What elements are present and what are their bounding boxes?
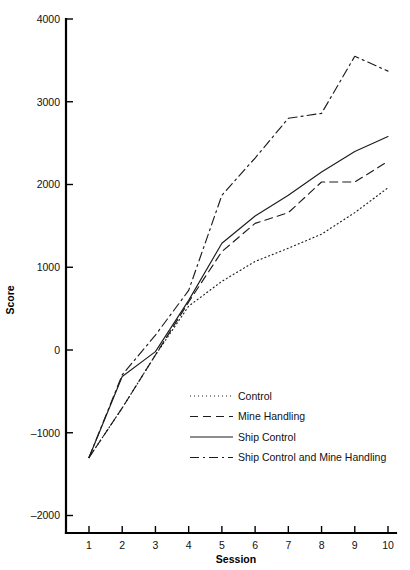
x-axis-title: Session: [216, 553, 256, 565]
y-axis-title: Score: [4, 285, 16, 314]
chart-figure: –2000–100001000200030004000 12345678910 …: [0, 0, 410, 570]
legend-label-ship-control: Ship Control: [238, 431, 296, 443]
line-chart: –2000–100001000200030004000 12345678910 …: [0, 0, 410, 570]
y-tick-label: 4000: [37, 13, 61, 25]
y-tick-label: 2000: [37, 178, 61, 190]
x-tick-label: 5: [219, 539, 225, 551]
x-axis-ticks: 12345678910: [86, 526, 394, 551]
x-tick-label: 4: [186, 539, 192, 551]
x-tick-label: 8: [319, 539, 325, 551]
y-tick-label: 1000: [37, 261, 61, 273]
legend-label-control: Control: [238, 390, 272, 402]
x-tick-label: 7: [285, 539, 291, 551]
legend-label-ship-control-and-mine-handling: Ship Control and Mine Handling: [238, 451, 386, 463]
x-tick-label: 1: [86, 539, 92, 551]
x-tick-label: 3: [153, 539, 159, 551]
y-tick-label: 0: [54, 344, 60, 356]
chart-legend: ControlMine HandlingShip ControlShip Con…: [190, 390, 386, 464]
y-tick-label: –1000: [31, 427, 60, 439]
x-tick-label: 6: [252, 539, 258, 551]
y-tick-label: 3000: [37, 96, 61, 108]
legend-label-mine-handling: Mine Handling: [238, 410, 305, 422]
y-tick-label: –2000: [31, 509, 60, 521]
x-tick-label: 9: [352, 539, 358, 551]
x-tick-label: 2: [119, 539, 125, 551]
x-tick-label: 10: [382, 539, 394, 551]
